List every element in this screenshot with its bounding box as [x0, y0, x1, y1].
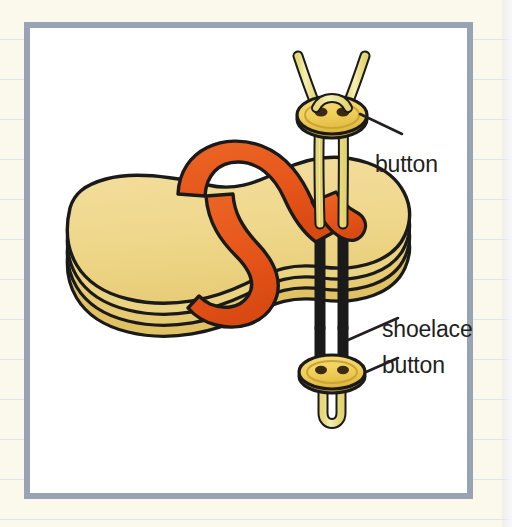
- button-lower-hole-right: [337, 366, 349, 374]
- button-lower-group: [299, 328, 365, 424]
- button-upper-group: [297, 56, 367, 138]
- page-edge-shading: [502, 0, 512, 527]
- sandal-diagram: [30, 28, 467, 493]
- notebook-page: button shoelace button: [0, 0, 512, 527]
- label-button-top: button: [375, 151, 438, 178]
- button-lower-hole-left: [315, 366, 327, 374]
- figure-frame: button shoelace button: [24, 22, 473, 499]
- label-shoelace: shoelace: [382, 316, 472, 343]
- label-button-bottom: button: [382, 352, 445, 379]
